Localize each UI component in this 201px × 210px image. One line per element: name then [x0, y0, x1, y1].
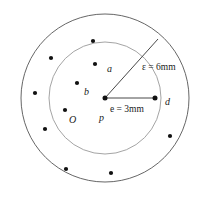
- point-outer-upper-left: [49, 56, 53, 60]
- point-inner-o: [63, 108, 67, 112]
- point-d: [153, 96, 158, 101]
- point-outer-bottom: [109, 171, 113, 175]
- label-inner-radius-measure: e = 3mm: [110, 105, 144, 115]
- label-outer-radius-measure: ε = 6mm: [142, 63, 176, 73]
- point-outer-left: [33, 91, 37, 95]
- point-outer-bottom-left: [64, 167, 68, 171]
- label-b: b: [84, 87, 89, 97]
- label-d: d: [165, 97, 170, 107]
- point-inner-a: [93, 62, 97, 66]
- point-outer-top: [91, 39, 95, 43]
- point-outer-right: [168, 134, 172, 138]
- label-o: O: [69, 115, 76, 125]
- figure-container: a b O p d ε = 6mm e = 3mm: [0, 0, 201, 210]
- point-outer-lower-left: [43, 127, 47, 131]
- label-p: p: [99, 113, 104, 123]
- label-a: a: [107, 64, 112, 74]
- figure-canvas: [0, 0, 201, 210]
- point-center-p: [103, 96, 108, 101]
- point-inner-b: [75, 81, 79, 85]
